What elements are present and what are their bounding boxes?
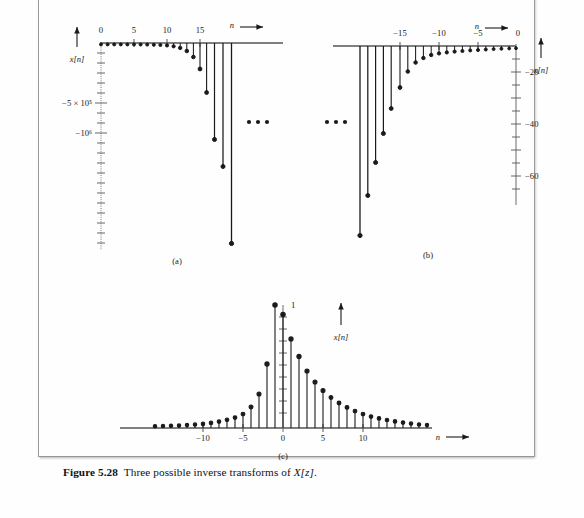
panel-b: n x[n] −15 −10 −5 0 −20 −40 −60 bbox=[325, 21, 548, 238]
stem bbox=[469, 46, 472, 52]
panel-c-stems bbox=[153, 303, 428, 428]
stem bbox=[201, 422, 205, 428]
figure-5-28: n x[n] 0 5 10 15 −5 × 10⁵ −10⁶ bbox=[0, 0, 584, 518]
stem bbox=[213, 43, 217, 142]
stem bbox=[461, 46, 464, 53]
stem bbox=[119, 43, 122, 46]
stem bbox=[205, 43, 209, 94]
stem bbox=[321, 389, 325, 429]
stem bbox=[437, 46, 440, 55]
stem bbox=[422, 46, 425, 60]
panel-a-xtick-2: 10 bbox=[163, 25, 172, 35]
stem bbox=[305, 369, 309, 428]
stem bbox=[358, 46, 362, 238]
stem bbox=[398, 46, 402, 89]
stem bbox=[169, 424, 172, 428]
stem bbox=[185, 43, 189, 53]
figure-svg: n x[n] 0 5 10 15 −5 × 10⁵ −10⁶ bbox=[0, 0, 584, 518]
figure-number: Figure 5.28 bbox=[63, 466, 118, 478]
panel-b-xtick-3: 0 bbox=[516, 28, 520, 38]
stem bbox=[414, 46, 418, 64]
stem bbox=[159, 43, 162, 47]
panel-c-xtick-4: 10 bbox=[359, 433, 368, 443]
stem bbox=[209, 421, 213, 428]
stem bbox=[353, 409, 357, 428]
panel-a-y-axis-label: x[n] bbox=[69, 54, 85, 64]
stem bbox=[393, 420, 397, 428]
stem bbox=[389, 46, 393, 110]
panel-a-stems bbox=[100, 43, 234, 246]
stem bbox=[289, 337, 293, 428]
stem bbox=[225, 418, 229, 428]
stem bbox=[374, 46, 378, 165]
panel-c-x-axis-label: n bbox=[436, 432, 440, 442]
stem bbox=[401, 421, 405, 428]
panel-c-xtick-1: −5 bbox=[238, 433, 247, 443]
stem bbox=[425, 423, 428, 428]
stem bbox=[406, 46, 410, 73]
panel-a-xtick-0: 0 bbox=[99, 25, 103, 35]
stem bbox=[430, 46, 433, 57]
panel-c-peak-label: 1 bbox=[291, 300, 295, 310]
stem bbox=[233, 416, 237, 428]
stem bbox=[100, 43, 103, 46]
stem bbox=[329, 396, 333, 428]
panel-a-ytick-1: −10⁶ bbox=[76, 128, 92, 138]
stem bbox=[221, 43, 225, 169]
stem bbox=[313, 380, 317, 428]
stem bbox=[385, 418, 389, 428]
panel-c-xtick-3: 5 bbox=[321, 433, 325, 443]
stem bbox=[257, 392, 261, 428]
stem bbox=[133, 43, 136, 46]
panel-c-sublabel: (c) bbox=[278, 451, 288, 461]
stem bbox=[417, 423, 420, 428]
stem bbox=[337, 401, 341, 428]
stem bbox=[361, 412, 365, 428]
stem bbox=[369, 415, 373, 428]
stem bbox=[477, 46, 480, 52]
stem bbox=[409, 422, 412, 428]
panel-c: 1 x[n] n −10 −5 0 5 10 bbox=[120, 300, 469, 443]
panel-a-xtick-3: 15 bbox=[196, 25, 205, 35]
panel-a: n x[n] 0 5 10 15 −5 × 10⁵ −10⁶ bbox=[62, 20, 283, 250]
panel-a-ellipsis bbox=[247, 120, 269, 124]
panel-c-xtick-2: 0 bbox=[281, 433, 285, 443]
panel-c-xtick-0: −10 bbox=[196, 433, 209, 443]
stem bbox=[161, 424, 164, 428]
panel-a-y-ticks bbox=[95, 53, 107, 243]
stem bbox=[152, 43, 155, 46]
panel-a-xtick-1: 5 bbox=[132, 25, 136, 35]
stem bbox=[146, 43, 149, 46]
stem bbox=[179, 43, 182, 50]
stem bbox=[177, 424, 180, 428]
stem bbox=[377, 417, 381, 428]
stem bbox=[281, 312, 285, 428]
stem bbox=[229, 43, 233, 246]
figure-caption: Figure 5.28 Three possible inverse trans… bbox=[63, 466, 317, 478]
stem bbox=[249, 405, 253, 428]
stem bbox=[265, 362, 269, 428]
stem bbox=[113, 43, 116, 46]
stem bbox=[273, 303, 277, 428]
panel-a-ytick-0: −5 × 10⁵ bbox=[62, 98, 92, 108]
stem bbox=[192, 43, 196, 59]
stem bbox=[217, 420, 221, 428]
stem bbox=[106, 43, 109, 46]
stem bbox=[126, 43, 129, 46]
stem bbox=[241, 412, 245, 428]
stem bbox=[381, 46, 385, 136]
stem bbox=[297, 354, 301, 428]
stem bbox=[492, 46, 495, 51]
stem bbox=[139, 43, 142, 46]
panel-b-xtick-2: −5 bbox=[473, 28, 482, 38]
stem bbox=[198, 43, 202, 71]
stem bbox=[172, 43, 175, 48]
stem bbox=[484, 46, 487, 51]
page-background: n x[n] 0 5 10 15 −5 × 10⁵ −10⁶ bbox=[0, 0, 584, 518]
panel-b-ytick-1: −20 bbox=[525, 67, 538, 77]
stem bbox=[445, 46, 448, 54]
stem bbox=[453, 46, 456, 53]
panel-c-y-axis-label: x[n] bbox=[333, 332, 349, 342]
panel-b-ytick-3: −60 bbox=[525, 171, 538, 181]
panel-b-sublabel: (b) bbox=[423, 250, 433, 260]
